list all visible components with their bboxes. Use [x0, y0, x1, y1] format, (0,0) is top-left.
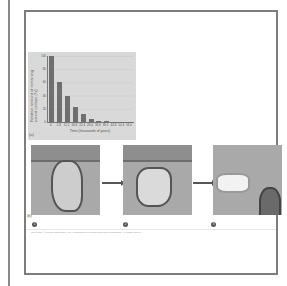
bar — [57, 82, 62, 122]
y-tick: 40 — [43, 94, 46, 98]
photo-step-2 — [123, 145, 192, 215]
bar — [89, 119, 94, 122]
y-axis-ticks: 0 20 40 60 80 100 — [38, 56, 46, 122]
bar — [128, 122, 133, 123]
photo-band — [123, 145, 192, 162]
y-tick: 20 — [43, 107, 46, 111]
arrow-right-icon — [193, 182, 213, 184]
x-tick: 22.4 — [79, 123, 85, 127]
step-badge-1: 1 — [32, 222, 37, 227]
y-axis-label: Relative amount of remaining parent isot… — [30, 60, 38, 122]
photo-step-3 — [213, 145, 282, 215]
bar — [120, 122, 125, 123]
copyright-caption: Copyright © Pearson Education, Inc., pub… — [31, 231, 141, 234]
panel-label-a: (a) — [29, 132, 34, 137]
x-tick: 50.4 — [118, 123, 124, 127]
bar — [104, 121, 109, 122]
plot-area — [47, 56, 134, 123]
specimen-outline — [51, 160, 83, 212]
photo-step-1 — [31, 145, 100, 215]
left-margin-rule — [8, 0, 10, 286]
x-tick: 5.8 — [57, 123, 61, 127]
bar — [81, 114, 86, 122]
x-tick: 44.8 — [111, 123, 117, 127]
caption-divider — [26, 229, 276, 230]
bar — [49, 56, 54, 122]
x-tick: 33.6 — [95, 123, 101, 127]
x-tick: 11.2 — [64, 123, 70, 127]
arrow-right-icon — [102, 182, 122, 184]
x-axis-ticks: 05.811.216.822.428.033.639.244.850.456.0 — [47, 123, 133, 128]
x-tick: 0 — [50, 123, 52, 127]
panel-label-b: (b) — [27, 213, 32, 218]
tool-tip — [259, 187, 281, 215]
bar — [96, 121, 101, 122]
x-tick: 56.0 — [126, 123, 132, 127]
y-tick: 80 — [43, 67, 46, 71]
x-tick: 16.8 — [71, 123, 77, 127]
step-badge-3: 3 — [211, 222, 216, 227]
x-axis-label: Time (thousands of years) — [47, 129, 133, 133]
bar-chart: Relative amount of remaining parent isot… — [28, 52, 136, 140]
bar — [73, 107, 78, 122]
x-tick: 28.0 — [87, 123, 93, 127]
figure-frame: Relative amount of remaining parent isot… — [24, 10, 278, 275]
step-badge-2: 2 — [123, 222, 128, 227]
specimen-outline — [136, 167, 172, 207]
bar — [112, 122, 117, 123]
x-tick: 39.2 — [103, 123, 109, 127]
y-tick: 60 — [43, 80, 46, 84]
y-tick: 100 — [41, 54, 46, 58]
y-tick: 0 — [44, 120, 46, 124]
bar — [65, 96, 70, 122]
specimen-fragment — [216, 173, 250, 193]
